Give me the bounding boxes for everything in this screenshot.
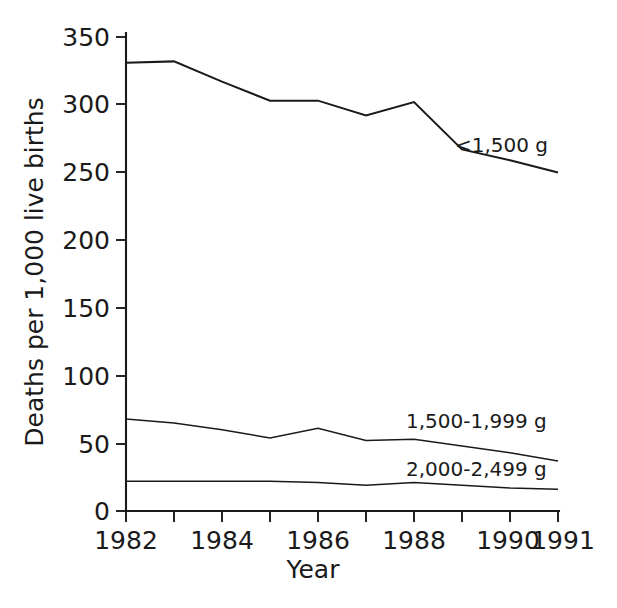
y-tick-label: 0 [94,497,110,526]
figure-caption [8,596,609,608]
series-line-2000-2499g [126,481,558,489]
x-tick-label: 1984 [190,526,254,555]
y-axis-title: Deaths per 1,000 live births [20,97,49,446]
x-tick-label: 1982 [94,526,158,555]
y-tick-label: 100 [62,362,110,391]
y-tick-label: 350 [62,23,110,52]
series-label-2000-2499g: 2,000-2,499 g [406,457,547,481]
figure-container: 350 300 250 200 150 100 50 0 1982 1984 [0,0,617,608]
x-tick-label: 1988 [382,526,446,555]
x-axis-tick-labels: 1982 1984 1986 1988 1990 1991 [94,526,595,555]
series-label-1500-1999g: 1,500-1,999 g [406,409,547,433]
x-tick-label: 1986 [286,526,350,555]
y-tick-label: 150 [62,294,110,323]
y-tick-label: 250 [62,158,110,187]
x-axis-title: Year [286,555,341,584]
y-tick-label: 50 [78,430,110,459]
y-axis-ticks [116,37,126,511]
line-chart: 350 300 250 200 150 100 50 0 1982 1984 [0,0,617,608]
x-axis-ticks [126,511,558,522]
y-tick-label: 200 [62,226,110,255]
y-axis-tick-labels: 350 300 250 200 150 100 50 0 [62,23,110,526]
y-tick-label: 300 [62,90,110,119]
series-label-under-1500g: <1,500 g [455,133,548,157]
x-tick-label: 1991 [531,526,595,555]
